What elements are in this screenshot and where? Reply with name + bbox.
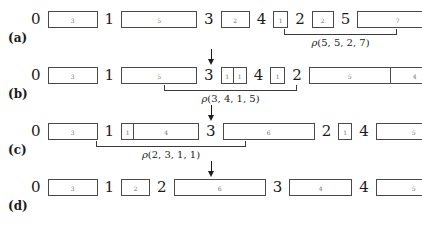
block-box: 7 <box>357 11 422 28</box>
block-label: 1 <box>238 73 242 80</box>
block-group: 3 <box>48 123 98 140</box>
block-box: 6 <box>174 179 266 196</box>
block-label: 4 <box>413 73 417 80</box>
separator-index: 5 <box>337 10 355 29</box>
block-box: 5 <box>376 123 422 140</box>
block-group: 1 <box>270 67 285 84</box>
separator-index: 0 <box>27 66 45 85</box>
block-group: 5 <box>121 67 197 84</box>
rho-operation-label: ρ(3, 4, 1, 5) <box>164 93 297 105</box>
block-label: 5 <box>412 185 416 192</box>
block-label: 3 <box>71 73 75 80</box>
stage-caption: (a) <box>8 31 27 45</box>
arrow-b-to-c <box>207 105 216 121</box>
rho-arguments: (3, 4, 1, 5) <box>207 93 259 104</box>
separator-index: 0 <box>27 178 45 197</box>
block-box: 5 <box>121 11 197 28</box>
separator-index: 2 <box>318 122 336 141</box>
block-box: 4 <box>133 123 199 140</box>
arrow-a-to-b <box>207 49 216 65</box>
block-label: 7 <box>396 17 400 24</box>
separator-index: 2 <box>291 10 309 29</box>
rho-arguments: (2, 3, 1, 1) <box>148 149 200 160</box>
separator-index: 4 <box>355 178 373 197</box>
block-label: 5 <box>157 17 161 24</box>
block-group: 4 <box>289 179 352 196</box>
arrow-head <box>208 59 214 65</box>
block-box: 1 <box>270 67 285 84</box>
stage-row-d: 0312263445516(d) <box>0 174 422 228</box>
block-box: 2 <box>312 11 334 28</box>
block-label: 1 <box>279 17 283 24</box>
separator-index: 0 <box>27 122 45 141</box>
block-group: 1 <box>273 11 288 28</box>
block-group: 2 <box>312 11 334 28</box>
transformation-figure: 03153241225716(a)ρ(5, 5, 2, 7)0315311412… <box>0 0 422 228</box>
block-box: 3 <box>48 67 98 84</box>
block-label: 1 <box>276 73 280 80</box>
block-label: 2 <box>321 17 325 24</box>
block-label: 1 <box>225 73 229 80</box>
block-box: 3 <box>48 179 98 196</box>
separator-index: 3 <box>269 178 287 197</box>
block-box: 2 <box>221 11 250 28</box>
separator-index: 3 <box>202 122 220 141</box>
rho-operation-label: ρ(5, 5, 2, 7) <box>284 37 397 49</box>
sequence-strip: 031531141254516 <box>27 66 422 85</box>
separator-index: 0 <box>27 10 45 29</box>
block-label: 2 <box>134 185 138 192</box>
block-label: 5 <box>157 73 161 80</box>
separator-index: 3 <box>200 10 218 29</box>
separator-index: 1 <box>101 122 119 141</box>
block-group: 5 <box>376 179 422 196</box>
separator-index: 1 <box>101 10 119 29</box>
block-group: 54 <box>309 67 422 84</box>
stage-caption: (c) <box>8 143 27 157</box>
separator-index: 2 <box>288 66 306 85</box>
underbrace <box>96 141 246 147</box>
stage-caption: (d) <box>8 199 28 213</box>
block-group: 11 <box>221 67 247 84</box>
rho-arguments: (5, 5, 2, 7) <box>317 37 369 48</box>
separator-index: 3 <box>200 66 218 85</box>
separator-index: 1 <box>101 178 119 197</box>
block-group: 2 <box>121 179 150 196</box>
separator-index: 4 <box>355 122 373 141</box>
sequence-strip: 03153241225716 <box>27 10 422 29</box>
block-box: 5 <box>121 67 197 84</box>
block-group: 6 <box>174 179 266 196</box>
block-label: 6 <box>267 129 271 136</box>
block-box: 3 <box>48 11 98 28</box>
underbrace <box>284 29 397 35</box>
block-box: 2 <box>121 179 150 196</box>
arrow-head <box>208 115 214 121</box>
block-group: 6 <box>223 123 315 140</box>
block-box: 6 <box>223 123 315 140</box>
block-box: 1 <box>233 67 247 84</box>
block-box: 1 <box>338 123 352 140</box>
block-box: 3 <box>48 123 98 140</box>
block-label: 1 <box>343 129 347 136</box>
block-label: 3 <box>71 129 75 136</box>
separator-index: 4 <box>250 66 268 85</box>
block-label: 4 <box>319 185 323 192</box>
separator-index: 4 <box>253 10 271 29</box>
block-box: 4 <box>390 67 422 84</box>
block-group: 14 <box>121 123 199 140</box>
block-box: 5 <box>376 179 422 196</box>
rho-operation-label: ρ(2, 3, 1, 1) <box>96 149 246 161</box>
sequence-strip: 03114362145516 <box>27 122 422 141</box>
separator-index: 1 <box>101 66 119 85</box>
block-label: 4 <box>164 129 168 136</box>
block-group: 1 <box>338 123 352 140</box>
arrow-c-to-d <box>207 161 216 177</box>
arrow-head <box>208 171 214 177</box>
block-box: 1 <box>273 11 288 28</box>
block-label: 3 <box>71 17 75 24</box>
underbrace <box>164 85 297 91</box>
block-label: 5 <box>348 73 352 80</box>
block-box: 5 <box>309 67 391 84</box>
separator-index: 2 <box>153 178 171 197</box>
block-label: 2 <box>233 17 237 24</box>
block-group: 3 <box>48 179 98 196</box>
